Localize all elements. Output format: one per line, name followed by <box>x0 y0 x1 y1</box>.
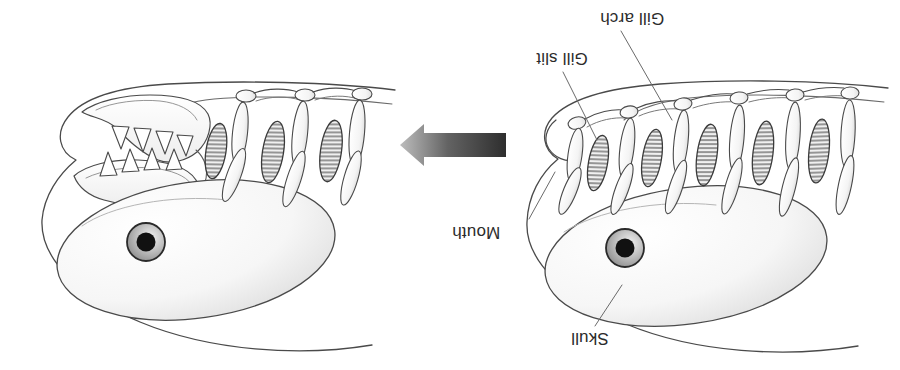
diagram-illustration <box>0 0 900 370</box>
label-gill-slit: Gill slit <box>536 48 588 68</box>
label-gill-arch: Gill arch <box>600 8 664 28</box>
eye <box>127 223 165 261</box>
diagram-canvas: Gill arch Gill slit Mouth Skull <box>0 0 900 370</box>
label-skull: Skull <box>571 328 609 348</box>
eye <box>606 229 644 267</box>
transition-arrow <box>400 124 506 166</box>
jawless-fish-head <box>527 81 888 352</box>
label-mouth: Mouth <box>452 222 500 242</box>
jawed-fish-head <box>42 82 395 351</box>
